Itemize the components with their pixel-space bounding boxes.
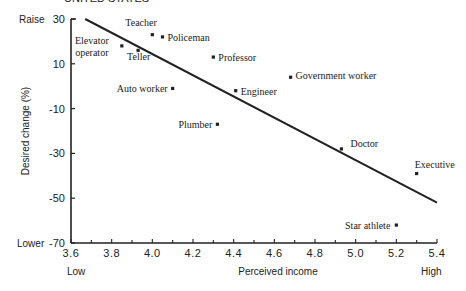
data-point: Star athlete xyxy=(345,220,398,231)
data-point: Auto worker xyxy=(117,83,174,94)
x-tick-label: 4.0 xyxy=(144,247,161,259)
point-marker xyxy=(340,147,343,150)
point-marker xyxy=(171,87,174,90)
data-point: Plumber xyxy=(179,119,219,130)
point-marker xyxy=(289,76,292,79)
point-marker xyxy=(234,89,237,92)
point-label: Engineer xyxy=(241,86,278,97)
point-label: Professor xyxy=(218,52,256,63)
point-marker xyxy=(216,123,219,126)
point-label: Teller xyxy=(127,51,151,62)
data-point: Teacher xyxy=(125,17,157,37)
x-tick-label: 4.4 xyxy=(225,247,242,259)
point-label: Elevator xyxy=(75,35,110,46)
data-point: Teller xyxy=(127,49,151,63)
point-label: Executive xyxy=(415,159,456,170)
point-label: operator xyxy=(75,47,109,58)
trend-line xyxy=(85,19,437,203)
point-marker xyxy=(161,35,164,38)
x-tick-label: 4.2 xyxy=(185,247,202,259)
x-tick-label: 3.8 xyxy=(103,247,120,259)
point-marker xyxy=(151,33,154,36)
y-tick-label: 10 xyxy=(53,58,65,70)
data-points: ElevatoroperatorTellerTeacherPolicemanPr… xyxy=(75,17,455,231)
point-label: Teacher xyxy=(125,17,157,28)
x-tick-label: 4.6 xyxy=(266,247,283,259)
y-raise-label: Raise xyxy=(19,14,45,25)
data-point: Government worker xyxy=(289,70,377,81)
x-tick-label: 3.6 xyxy=(63,247,80,259)
x-high-label: High xyxy=(421,266,442,277)
y-tick-label: -50 xyxy=(49,192,65,204)
point-label: Government worker xyxy=(296,70,377,81)
point-label: Doctor xyxy=(350,138,378,149)
data-point: Doctor xyxy=(340,138,379,151)
x-tick-label: 5.2 xyxy=(388,247,405,259)
y-tick-label: -10 xyxy=(49,103,65,115)
point-label: Policeman xyxy=(168,32,210,43)
data-point: Executive xyxy=(415,159,456,176)
data-point: Policeman xyxy=(161,32,210,43)
point-label: Auto worker xyxy=(117,83,168,94)
point-label: Plumber xyxy=(179,119,214,130)
point-label: Star athlete xyxy=(345,220,391,231)
point-marker xyxy=(395,223,398,226)
point-marker xyxy=(120,44,123,47)
x-tick-label: 5.4 xyxy=(429,247,446,259)
x-tick-label: 4.8 xyxy=(307,247,324,259)
y-tick-label: -30 xyxy=(49,147,65,159)
x-tick-label: 5.0 xyxy=(347,247,364,259)
x-low-label: Low xyxy=(67,266,86,277)
data-point: Elevatoroperator xyxy=(75,35,124,58)
x-axis-label: Perceived income xyxy=(238,266,318,277)
scatter-chart: UNITED STATES 3010-10-30-50-703.63.84.04… xyxy=(0,0,466,291)
y-lower-label: Lower xyxy=(17,238,45,249)
point-marker xyxy=(415,172,418,175)
data-point: Professor xyxy=(212,52,257,63)
y-tick-label: 30 xyxy=(53,13,65,25)
y-axis-label: Desired change (%) xyxy=(20,87,31,175)
data-point: Engineer xyxy=(234,86,277,97)
point-marker xyxy=(212,55,215,58)
cut-title: UNITED STATES xyxy=(64,0,149,4)
